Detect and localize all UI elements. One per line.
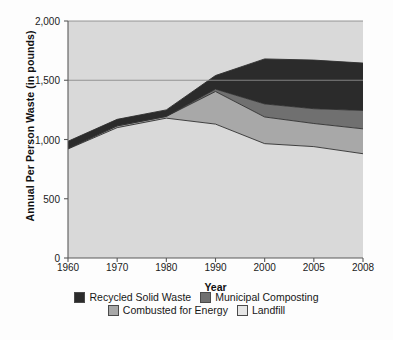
- legend-item-municipal-composting[interactable]: Municipal Composting: [200, 291, 318, 303]
- legend-swatch-landfill: [237, 305, 248, 316]
- legend-label-municipal-composting: Municipal Composting: [215, 291, 318, 303]
- legend-item-recycled-solid-waste[interactable]: Recycled Solid Waste: [74, 291, 191, 303]
- legend-label-combusted-for-energy: Combusted for Energy: [123, 304, 228, 316]
- legend-swatch-recycled-solid-waste: [74, 292, 85, 303]
- legend-row-2: Combusted for Energy Landfill: [0, 304, 393, 316]
- legend-item-combusted-for-energy[interactable]: Combusted for Energy: [108, 304, 228, 316]
- legend-swatch-combusted-for-energy: [108, 305, 119, 316]
- legend-label-recycled-solid-waste: Recycled Solid Waste: [89, 291, 191, 303]
- chart-figure: Annual Per Person Waste (in pounds) 0 50…: [0, 0, 393, 340]
- legend-swatch-municipal-composting: [200, 292, 211, 303]
- legend-row-1: Recycled Solid Waste Municipal Compostin…: [0, 291, 393, 303]
- legend-item-landfill[interactable]: Landfill: [237, 304, 285, 316]
- chart-legend: Recycled Solid Waste Municipal Compostin…: [0, 291, 393, 317]
- legend-label-landfill: Landfill: [252, 304, 285, 316]
